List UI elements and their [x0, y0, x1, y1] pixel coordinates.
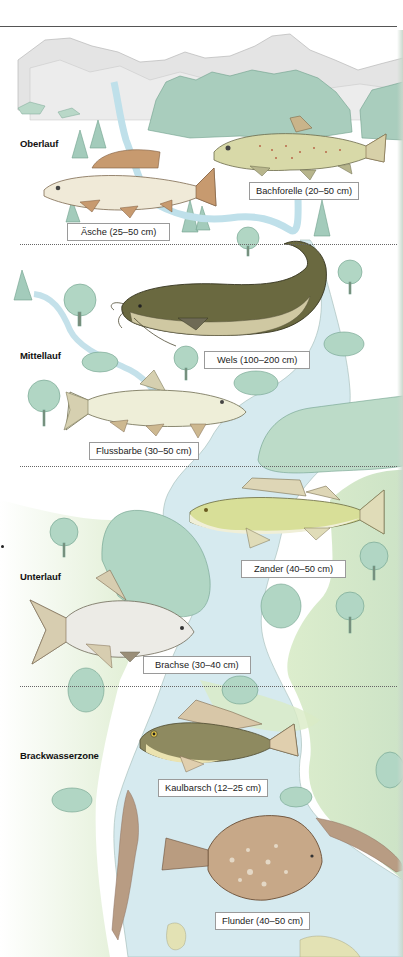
caption-asche: Äsche (25–50 cm) [67, 223, 170, 241]
zone-label-oberlauf: Oberlauf [20, 138, 58, 149]
fish-wels [111, 241, 326, 346]
caption-brachse: Brachse (30–40 cm) [143, 656, 251, 674]
zone-label-brackwasserzone: Brackwasserzone [20, 750, 99, 761]
fish-kaulbarsch [140, 700, 298, 772]
fish-illustrations [0, 0, 403, 957]
zone-divider-2 [20, 466, 397, 467]
margin-mark [1, 545, 4, 548]
caption-flunder: Flunder (40–50 cm) [215, 912, 310, 930]
fish-flunder [162, 816, 322, 901]
fish-bachforelle [214, 116, 386, 180]
fish-asche [44, 150, 216, 218]
fish-zander [190, 478, 384, 548]
zone-divider-1 [20, 244, 397, 245]
caption-bachforelle: Bachforelle (20–50 cm) [249, 182, 359, 200]
fish-brachse [30, 570, 194, 668]
caption-flussbarbe: Flussbarbe (30–50 cm) [89, 442, 199, 460]
zone-label-unterlauf: Unterlauf [20, 571, 61, 582]
page-edge-shadow [397, 30, 403, 957]
caption-wels: Wels (100–200 cm) [204, 351, 310, 369]
zone-label-mittellauf: Mittellauf [20, 350, 61, 361]
caption-kaulbarsch: Kaulbarsch (12–25 cm) [158, 779, 268, 797]
zone-divider-3 [20, 686, 397, 687]
fish-flussbarbe [64, 370, 246, 438]
caption-zander: Zander (40–50 cm) [241, 560, 346, 578]
